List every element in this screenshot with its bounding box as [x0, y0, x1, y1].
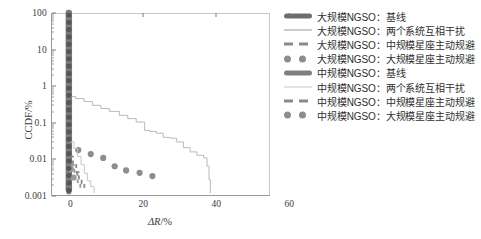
legend-key-dots-icon [283, 52, 313, 66]
legend-label-1: 大规模NGSO：两个系统互相干扰 [317, 23, 465, 38]
legend-item-2[interactable]: 大规模NGSO：中规模星座主动规避 [283, 37, 479, 51]
y-tick-minor [52, 141, 54, 142]
y-axis-label: CCDF/% [23, 100, 34, 139]
y-tick-minor [52, 68, 54, 69]
legend-item-4[interactable]: 中规模NGSO：基线 [283, 66, 479, 80]
y-tick-minor [52, 60, 54, 61]
series-line [71, 142, 95, 193]
y-tick-minor [52, 89, 54, 90]
series-marker [100, 155, 106, 161]
baseline-marker [66, 180, 71, 185]
y-tick-label-0.01: 0.01 [30, 154, 52, 164]
y-tick-minor [52, 75, 54, 76]
y-tick-minor [52, 178, 54, 179]
baseline-marker [66, 122, 71, 127]
series-marker [149, 173, 155, 179]
y-tick-minor [52, 91, 54, 92]
legend-item-0[interactable]: 大规模NGSO：基线 [283, 9, 479, 23]
legend-key-thick-line-icon-2 [283, 66, 313, 80]
x-axis-label-unit: /% [160, 216, 172, 227]
baseline-marker [66, 85, 71, 90]
legend-key-dashed-line-icon [283, 37, 313, 51]
y-tick-minor [52, 161, 54, 162]
baseline-marker [66, 188, 71, 193]
legend-label-5: 中规模NGSO：两个系统互相干扰 [317, 80, 465, 95]
y-tick-minor [52, 97, 54, 98]
y-tick-minor [52, 16, 54, 17]
series-marker [123, 167, 129, 173]
chart-figure: CCDF/% ΔR/% 100 10 1 0.1 0.01 0.001 0 20… [0, 0, 481, 239]
baseline-marker [66, 20, 71, 25]
legend-key-thin-line-pale-icon [283, 80, 313, 94]
legend-key-dashed-line-icon-2 [283, 94, 313, 108]
y-tick-minor [52, 94, 54, 95]
y-tick-minor [52, 105, 54, 106]
legend-label-0: 大规模NGSO：基线 [317, 9, 405, 24]
baseline-marker [66, 93, 71, 98]
y-tick-minor [52, 87, 54, 88]
x-tick-label-60: 60 [285, 195, 295, 209]
legend-label-6: 中规模NGSO：中规模星座主动规避 [317, 94, 475, 109]
series-marker [112, 163, 118, 169]
x-axis-label: ΔR/% [148, 216, 172, 227]
legend-item-5[interactable]: 中规模NGSO：两个系统互相干扰 [283, 80, 479, 94]
y-tick-minor [52, 53, 54, 54]
y-tick-label-1: 1 [42, 81, 52, 91]
baseline-marker [66, 166, 71, 171]
y-tick-minor [52, 167, 54, 168]
legend-label-2: 大规模NGSO：中规模星座主动规避 [317, 37, 475, 52]
baseline-marker [66, 144, 71, 149]
legend-key-thick-line-icon [283, 9, 313, 23]
y-tick-minor [52, 128, 54, 129]
y-tick-minor [52, 38, 54, 39]
y-tick-label-100: 100 [32, 8, 52, 18]
y-tick-minor [52, 126, 54, 127]
y-tick-minor [52, 165, 54, 166]
legend-item-3[interactable]: 大规模NGSO：大规模星座主动规避 [283, 52, 479, 66]
series-layer [52, 13, 271, 196]
y-tick-minor [52, 162, 54, 163]
y-tick-minor [52, 24, 54, 25]
baseline-marker [66, 129, 71, 134]
y-tick-minor [52, 111, 54, 112]
y-tick-minor [52, 21, 54, 22]
baseline-marker [66, 27, 71, 32]
chart-legend: 大规模NGSO：基线 大规模NGSO：两个系统互相干扰 大规模NGSO：中规模星… [283, 9, 479, 123]
y-tick-minor [52, 133, 54, 134]
y-tick-label-0.001: 0.001 [25, 191, 52, 201]
x-axis-label-symbol: ΔR [148, 216, 161, 227]
series-marker [137, 170, 143, 176]
plot-area: 100 10 1 0.1 0.01 0.001 0 20 40 60 [51, 13, 270, 196]
legend-item-6[interactable]: 中规模NGSO：中规模星座主动规避 [283, 94, 479, 108]
baseline-marker [66, 49, 71, 54]
series-marker [88, 151, 94, 157]
baseline-marker [66, 12, 71, 17]
y-tick-minor [52, 100, 54, 101]
y-tick-minor [52, 14, 54, 15]
series-line [70, 97, 210, 194]
y-tick-minor [52, 137, 54, 138]
baseline-marker [66, 115, 71, 120]
y-tick-minor [52, 124, 54, 125]
y-tick-minor [52, 51, 54, 52]
baseline-marker [66, 71, 71, 76]
legend-key-dots-icon-2 [283, 108, 313, 122]
y-tick-minor [52, 130, 54, 131]
y-tick-minor [52, 64, 54, 65]
y-tick-minor [52, 57, 54, 58]
baseline-marker [66, 137, 71, 142]
baseline-marker [66, 42, 71, 47]
legend-label-3: 大规模NGSO：大规模星座主动规避 [317, 51, 475, 66]
baseline-marker [66, 100, 71, 105]
baseline-marker [66, 34, 71, 39]
y-tick-minor [52, 27, 54, 28]
legend-item-7[interactable]: 中规模NGSO：大规模星座主动规避 [283, 108, 479, 122]
legend-item-1[interactable]: 大规模NGSO：两个系统互相干扰 [283, 23, 479, 37]
legend-label-4: 中规模NGSO：基线 [317, 65, 405, 80]
y-tick-minor [52, 55, 54, 56]
y-tick-minor [52, 32, 54, 33]
legend-key-thin-line-icon [283, 23, 313, 37]
y-tick-minor [52, 148, 54, 149]
y-tick-minor [52, 184, 54, 185]
baseline-marker [66, 78, 71, 83]
